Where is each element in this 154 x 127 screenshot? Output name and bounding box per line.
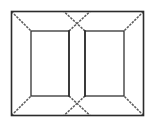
diagram-background xyxy=(0,0,154,127)
diagram-canvas xyxy=(0,0,154,127)
perspective-box-diagram xyxy=(0,0,154,127)
